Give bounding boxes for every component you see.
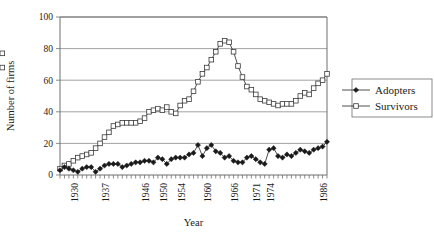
data-point-marker bbox=[160, 108, 165, 113]
x-tick-label: 1986 bbox=[319, 183, 329, 202]
data-point-marker bbox=[307, 92, 312, 97]
y-tick-marks bbox=[56, 17, 60, 175]
x-axis-title: Year bbox=[184, 217, 204, 228]
data-point-marker bbox=[196, 79, 201, 84]
data-point-marker bbox=[129, 121, 134, 126]
x-tick-label: 1946 bbox=[141, 183, 151, 202]
data-point-marker bbox=[298, 94, 303, 99]
data-point-marker bbox=[191, 89, 196, 94]
data-point-marker bbox=[89, 151, 94, 156]
data-point-marker bbox=[133, 121, 138, 126]
data-point-marker bbox=[325, 72, 330, 77]
data-point-marker bbox=[213, 49, 218, 54]
y-tick-label: 40 bbox=[44, 107, 54, 117]
x-tick-label: 1974 bbox=[266, 183, 276, 202]
data-point-marker bbox=[245, 84, 250, 89]
data-point-marker bbox=[205, 65, 210, 70]
data-point-marker bbox=[302, 91, 307, 96]
data-point-marker bbox=[165, 105, 170, 110]
x-tick-label: 1971 bbox=[252, 183, 262, 202]
data-point-marker bbox=[271, 102, 276, 107]
chart-legend: AdoptersSurvivors bbox=[342, 79, 432, 117]
x-tick-label: 1930 bbox=[70, 183, 80, 202]
data-point-marker bbox=[0, 65, 5, 70]
data-point-marker bbox=[285, 102, 290, 107]
data-point-marker bbox=[316, 81, 321, 86]
data-point-marker bbox=[276, 103, 281, 108]
data-point-marker bbox=[142, 116, 147, 121]
data-point-marker bbox=[222, 38, 227, 43]
data-point-marker bbox=[151, 108, 156, 113]
chart-figure: 020406080100 193019371946195019541960196… bbox=[0, 0, 434, 239]
data-point-marker bbox=[124, 121, 129, 126]
data-point-marker bbox=[187, 97, 192, 102]
data-point-marker bbox=[138, 119, 143, 124]
data-point-marker bbox=[116, 122, 121, 127]
y-axis-title: Number of firms bbox=[5, 61, 16, 132]
x-tick-label: 1937 bbox=[101, 183, 111, 202]
data-point-marker bbox=[76, 155, 81, 160]
x-tick-label: 1954 bbox=[177, 183, 187, 202]
data-point-marker bbox=[120, 121, 125, 126]
data-point-marker bbox=[67, 162, 72, 167]
data-point-marker bbox=[178, 103, 183, 108]
data-point-marker bbox=[173, 111, 178, 116]
data-point-marker bbox=[280, 102, 285, 107]
data-point-marker bbox=[249, 87, 254, 92]
data-point-marker bbox=[354, 104, 359, 109]
data-point-marker bbox=[289, 102, 294, 107]
data-point-marker bbox=[111, 124, 116, 129]
y-tick-label: 0 bbox=[48, 170, 53, 180]
data-point-marker bbox=[182, 98, 187, 103]
series-survivors bbox=[0, 38, 329, 171]
x-tick-label: 1966 bbox=[230, 183, 240, 202]
y-tick-label: 100 bbox=[39, 12, 54, 22]
data-point-marker bbox=[258, 97, 263, 102]
data-point-marker bbox=[0, 51, 5, 56]
data-point-marker bbox=[102, 135, 107, 140]
data-point-marker bbox=[156, 106, 161, 111]
data-point-marker bbox=[240, 75, 245, 80]
data-point-marker bbox=[200, 72, 205, 77]
x-tick-labels: 1930193719461950195419601966197119741986 bbox=[70, 183, 329, 202]
data-point-marker bbox=[107, 130, 112, 135]
data-point-marker bbox=[311, 86, 316, 91]
y-tick-label: 80 bbox=[44, 44, 54, 54]
legend-label-adopters: Adopters bbox=[375, 84, 415, 96]
data-point-marker bbox=[169, 110, 174, 115]
line-chart: 020406080100 193019371946195019541960196… bbox=[0, 0, 434, 239]
gridlines-group bbox=[60, 17, 327, 143]
data-point-marker bbox=[209, 57, 214, 62]
data-point-marker bbox=[93, 146, 98, 151]
data-point-marker bbox=[218, 42, 223, 47]
data-point-marker bbox=[80, 154, 85, 159]
y-tick-label: 60 bbox=[44, 76, 54, 86]
data-point-marker bbox=[231, 49, 236, 54]
data-point-marker bbox=[200, 153, 205, 158]
data-point-marker bbox=[262, 98, 267, 103]
data-point-marker bbox=[84, 152, 89, 157]
data-point-marker bbox=[147, 110, 152, 115]
data-point-marker bbox=[254, 92, 259, 97]
data-point-marker bbox=[267, 100, 272, 105]
data-point-marker bbox=[236, 64, 241, 69]
y-tick-label: 20 bbox=[44, 139, 54, 149]
x-tick-marks bbox=[60, 175, 327, 179]
data-point-marker bbox=[98, 141, 103, 146]
y-tick-labels: 020406080100 bbox=[39, 12, 54, 180]
data-point-marker bbox=[71, 158, 76, 163]
data-point-marker bbox=[227, 40, 232, 45]
legend-label-survivors: Survivors bbox=[375, 100, 418, 112]
data-point-marker bbox=[294, 98, 299, 103]
x-tick-label: 1960 bbox=[203, 183, 213, 202]
data-point-marker bbox=[320, 78, 325, 83]
x-tick-label: 1950 bbox=[159, 183, 169, 202]
